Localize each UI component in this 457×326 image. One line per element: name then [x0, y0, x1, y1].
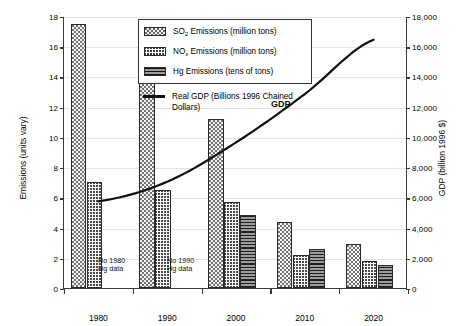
- annotation-no-1980-hg: No 1980 Hg data: [98, 257, 125, 274]
- left-tick-label: 18: [49, 13, 58, 22]
- nox-wavy-swatch: [144, 47, 166, 56]
- annotation-no-1990-hg: No 1990 Hg data: [167, 257, 194, 274]
- right-tick-label: 2,000: [412, 254, 433, 263]
- legend-item-hg[interactable]: Hg Emissions (tens of tons): [144, 64, 306, 79]
- right-tick-label: 10,000: [412, 133, 437, 142]
- x-tick-label: 1980: [89, 313, 108, 323]
- left-tick-label: 8: [53, 164, 58, 173]
- chart-legend: SO2 Emissions (million tons) NOx Emissio…: [138, 19, 312, 113]
- left-tick-label: 16: [49, 43, 58, 52]
- right-tick-label: 14,000: [412, 73, 437, 82]
- left-tick-label: 6: [53, 194, 58, 203]
- so2-dotted-swatch: [144, 27, 166, 36]
- annotation-no-1990-line2: Hg data: [167, 265, 194, 273]
- right-tick-label: 6,000: [412, 194, 433, 203]
- left-tick-label: 12: [49, 103, 58, 112]
- x-tick: [202, 289, 203, 294]
- right-tick-label: 12,000: [412, 103, 437, 112]
- x-tick: [408, 289, 409, 294]
- right-tick-label: 4,000: [412, 224, 433, 233]
- left-tick-label: 10: [49, 133, 58, 142]
- x-tick-label: 2000: [227, 313, 246, 323]
- left-tick-label: 0: [53, 285, 58, 294]
- right-axis-tick-labels: 02,0004,0006,0008,00010,00012,00014,0001…: [412, 17, 457, 289]
- left-axis-tick-labels: 024681012141618: [0, 17, 58, 289]
- legend-label-nox: NOx Emissions (million tons): [173, 47, 277, 56]
- gdp-line-swatch: [143, 95, 165, 98]
- legend-item-gdp[interactable]: Real GDP (Billions 1996 Chained Dollars): [138, 91, 312, 113]
- x-tick-label: 2020: [364, 313, 383, 323]
- legend-item-so2[interactable]: SO2 Emissions (million tons): [144, 24, 306, 39]
- right-tick-label: 16,000: [412, 43, 437, 52]
- legend-label-hg: Hg Emissions (tens of tons): [173, 67, 273, 76]
- x-tick-label: 1990: [158, 313, 177, 323]
- x-tick: [64, 289, 65, 294]
- legend-label-so2: SO2 Emissions (million tons): [173, 27, 276, 36]
- x-tick: [133, 289, 134, 294]
- hg-lines-swatch: [144, 67, 166, 76]
- legend-label-gdp: Real GDP (Billions 1996 Chained Dollars): [172, 91, 302, 113]
- left-tick-label: 14: [49, 73, 58, 82]
- legend-box: SO2 Emissions (million tons) NOx Emissio…: [138, 19, 312, 84]
- legend-item-nox[interactable]: NOx Emissions (million tons): [144, 44, 306, 59]
- left-tick-label: 4: [53, 224, 58, 233]
- x-tick-label: 2010: [295, 313, 314, 323]
- emissions-gdp-chart: Emissions (units vary) GDP (billion 1996…: [0, 0, 457, 326]
- annotation-no-1980-line2: Hg data: [98, 265, 125, 273]
- right-tick-label: 0: [412, 285, 417, 294]
- right-tick-label: 18,000: [412, 13, 437, 22]
- x-tick: [270, 289, 271, 294]
- x-tick: [339, 289, 340, 294]
- right-tick-label: 8,000: [412, 164, 433, 173]
- left-tick-label: 2: [53, 254, 58, 263]
